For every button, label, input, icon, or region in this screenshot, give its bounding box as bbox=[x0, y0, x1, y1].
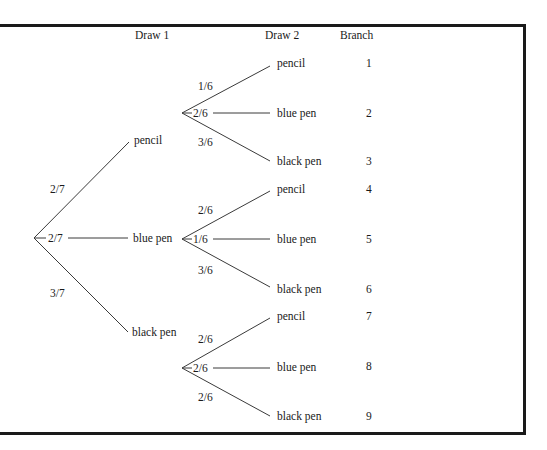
draw2-item-2: blue pen bbox=[277, 107, 316, 120]
branch-number-4: 4 bbox=[366, 183, 372, 196]
branch-number-3: 3 bbox=[366, 155, 372, 168]
draw2-item-8: blue pen bbox=[277, 361, 316, 374]
edge-root-blackpen bbox=[34, 238, 128, 332]
draw2-item-4: pencil bbox=[277, 183, 305, 196]
prob-root-blackpen: 3/7 bbox=[50, 287, 65, 300]
branch-number-1: 1 bbox=[366, 57, 372, 70]
prob-3-3: 2/6 bbox=[198, 391, 213, 404]
draw1-blackpen: black pen bbox=[132, 326, 176, 339]
prob-root-pencil: 2/7 bbox=[50, 183, 65, 196]
tree-lines bbox=[0, 0, 547, 450]
prob-1-3: 3/6 bbox=[198, 136, 213, 149]
header-branch: Branch bbox=[340, 29, 373, 42]
draw2-item-1: pencil bbox=[277, 57, 305, 70]
prob-3-2: 2/6 bbox=[193, 362, 208, 375]
prob-2-1: 2/6 bbox=[198, 204, 213, 217]
branch-number-9: 9 bbox=[366, 410, 372, 423]
header-draw2: Draw 2 bbox=[265, 29, 299, 42]
prob-1-1: 1/6 bbox=[198, 80, 213, 93]
header-draw1: Draw 1 bbox=[135, 29, 169, 42]
draw2-item-5: blue pen bbox=[277, 233, 316, 246]
draw2-item-9: black pen bbox=[277, 410, 321, 423]
edge-root-pencil bbox=[34, 142, 129, 238]
branch-number-7: 7 bbox=[366, 310, 372, 323]
draw1-pencil: pencil bbox=[134, 134, 162, 147]
prob-2-3: 3/6 bbox=[198, 264, 213, 277]
prob-1-2: 2/6 bbox=[193, 107, 208, 120]
prob-2-2: 1/6 bbox=[193, 233, 208, 246]
prob-3-1: 2/6 bbox=[198, 333, 213, 346]
branch-number-8: 8 bbox=[366, 360, 372, 373]
draw1-bluepen: blue pen bbox=[133, 232, 172, 245]
draw2-item-7: pencil bbox=[277, 310, 305, 323]
branch-number-6: 6 bbox=[366, 283, 372, 296]
prob-root-bluepen: 2/7 bbox=[48, 232, 63, 245]
draw2-item-6: black pen bbox=[277, 283, 321, 296]
draw2-item-3: black pen bbox=[277, 155, 321, 168]
branch-number-2: 2 bbox=[366, 107, 372, 120]
branch-number-5: 5 bbox=[366, 233, 372, 246]
